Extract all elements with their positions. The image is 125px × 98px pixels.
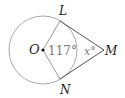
geometry-diagram: O L M N 117° x° [0, 0, 125, 98]
label-o: O [29, 42, 40, 57]
label-l: L [58, 4, 67, 18]
center-point [41, 48, 44, 51]
label-n: N [59, 83, 71, 97]
label-m: M [104, 44, 118, 58]
angle-central: 117° [48, 44, 77, 58]
circle-tangent-figure: O L M N 117° x° [0, 0, 125, 98]
angle-x: x° [84, 45, 96, 58]
